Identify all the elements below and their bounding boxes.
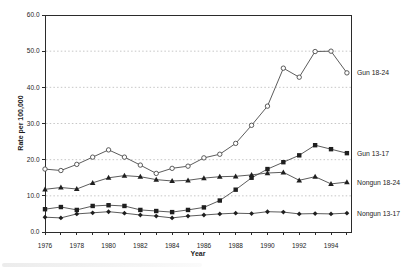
x-axis-title: Year: [191, 250, 206, 257]
x-tick-label: 1976: [38, 242, 53, 249]
x-tick-label: 1978: [70, 242, 85, 249]
marker-circle: [202, 156, 206, 160]
marker-diamond: [297, 212, 302, 217]
y-tick-label: 20.0: [27, 156, 40, 163]
marker-circle: [122, 155, 126, 159]
series-label-gun-18-24: Gun 18-24: [357, 69, 389, 77]
y-axis-title: Rate per 100,000: [17, 95, 24, 150]
marker-diamond: [265, 209, 270, 214]
series-label-nongun-13-17: Nongun 13-17: [357, 210, 400, 218]
marker-diamond: [249, 211, 254, 216]
marker-diamond: [138, 213, 143, 218]
marker-square: [75, 208, 79, 212]
y-tick-label: 60.0: [27, 11, 40, 18]
marker-square: [233, 187, 237, 191]
marker-diamond: [90, 210, 95, 215]
x-tick-label: 1992: [292, 242, 307, 249]
marker-diamond: [58, 215, 63, 220]
series-label-nongun-18-24: Nongun 18-24: [357, 179, 400, 187]
marker-circle: [138, 163, 142, 167]
marker-circle: [249, 123, 253, 127]
marker-circle: [233, 141, 237, 145]
y-tick-label: 0.0: [30, 228, 39, 235]
marker-diamond: [217, 212, 222, 217]
marker-triangle: [58, 185, 64, 190]
marker-diamond: [43, 215, 48, 220]
series-line-0: [45, 51, 347, 173]
marker-diamond: [329, 212, 334, 217]
x-tick-label: 1990: [260, 242, 275, 249]
marker-square: [154, 209, 158, 213]
marker-diamond: [154, 214, 159, 219]
marker-diamond: [186, 214, 191, 219]
marker-square: [59, 205, 63, 209]
marker-circle: [106, 148, 110, 152]
x-tick-label: 1994: [324, 242, 339, 249]
series-line-3: [45, 212, 347, 218]
marker-triangle: [281, 169, 287, 174]
marker-diamond: [313, 211, 318, 216]
marker-triangle: [344, 179, 350, 184]
marker-circle: [186, 164, 190, 168]
marker-square: [313, 143, 317, 147]
marker-square: [345, 151, 349, 155]
marker-square: [297, 153, 301, 157]
marker-circle: [43, 167, 47, 171]
marker-square: [202, 205, 206, 209]
scan-artifact-smudge: [2, 263, 202, 267]
marker-circle: [329, 49, 333, 53]
marker-square: [43, 207, 47, 211]
marker-square: [186, 208, 190, 212]
marker-square: [138, 208, 142, 212]
marker-circle: [154, 171, 158, 175]
marker-diamond: [106, 209, 111, 214]
x-tick-label: 1986: [197, 242, 212, 249]
marker-triangle: [312, 174, 318, 179]
x-tick-label: 1980: [101, 242, 116, 249]
marker-circle: [297, 75, 301, 79]
marker-square: [106, 203, 110, 207]
marker-circle: [345, 71, 349, 75]
marker-square: [90, 204, 94, 208]
marker-circle: [281, 66, 285, 70]
y-tick-label: 50.0: [27, 47, 40, 54]
marker-triangle: [122, 173, 128, 178]
marker-square: [122, 204, 126, 208]
marker-square: [329, 147, 333, 151]
marker-circle: [75, 162, 79, 166]
series-line-1: [45, 145, 347, 212]
marker-diamond: [233, 211, 238, 216]
marker-diamond: [170, 215, 175, 220]
x-tick-label: 1988: [228, 242, 243, 249]
marker-square: [281, 160, 285, 164]
marker-circle: [59, 168, 63, 172]
marker-diamond: [202, 213, 207, 218]
marker-circle: [170, 166, 174, 170]
marker-diamond: [74, 212, 79, 217]
series-line-2: [45, 172, 347, 189]
x-tick-label: 1982: [133, 242, 148, 249]
marker-diamond: [345, 211, 350, 216]
series-label-gun-13-17: Gun 13-17: [357, 150, 389, 158]
marker-circle: [90, 155, 94, 159]
marker-square: [170, 210, 174, 214]
marker-circle: [313, 49, 317, 53]
marker-circle: [265, 104, 269, 108]
y-tick-label: 40.0: [27, 84, 40, 91]
marker-diamond: [122, 211, 127, 216]
line-chart-canvas: 0.010.020.030.040.050.060.01976197819801…: [0, 0, 408, 271]
x-tick-label: 1984: [165, 242, 180, 249]
marker-circle: [218, 152, 222, 156]
homicide-rate-line-chart-figure: 0.010.020.030.040.050.060.01976197819801…: [0, 0, 408, 271]
marker-diamond: [281, 210, 286, 215]
marker-square: [218, 198, 222, 202]
y-tick-label: 30.0: [27, 120, 40, 127]
y-tick-label: 10.0: [27, 192, 40, 199]
